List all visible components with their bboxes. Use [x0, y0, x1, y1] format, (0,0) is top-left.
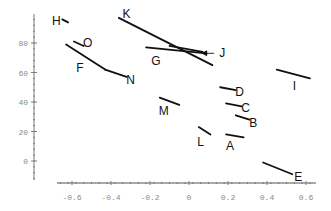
segment-i — [277, 70, 310, 79]
y-tick-label: 20 — [18, 128, 28, 137]
label-b: B — [249, 116, 257, 130]
y-axis: 020406080 — [18, 14, 37, 180]
label-i: I — [293, 79, 296, 93]
segment-d — [220, 87, 236, 90]
y-tick-label: 80 — [18, 39, 28, 48]
segment-a — [226, 134, 244, 137]
segment-h — [62, 19, 68, 22]
label-g: G — [151, 54, 160, 68]
data-segments — [62, 18, 310, 174]
label-f: F — [76, 61, 83, 75]
label-a: A — [226, 139, 234, 153]
label-j: J — [219, 46, 225, 60]
label-k: K — [123, 7, 131, 21]
label-c: C — [241, 101, 250, 115]
label-o: O — [83, 36, 92, 50]
x-tick-label: -0.6 — [62, 193, 81, 202]
x-tick-label: 0.6 — [299, 193, 314, 202]
scatter-segment-chart: 020406080 -0.6-0.4-0.200.20.40.6 HOFNKGJ… — [0, 0, 331, 211]
x-tick-label: 0 — [187, 193, 192, 202]
x-axis: -0.6-0.4-0.200.20.40.6 — [57, 181, 316, 202]
x-tick-label: -0.2 — [140, 193, 159, 202]
label-d: D — [235, 85, 244, 99]
y-tick-label: 40 — [18, 98, 28, 107]
segment-labels: HOFNKGJDCBALMIE — [52, 7, 302, 185]
segment-n — [105, 70, 126, 77]
label-n: N — [126, 73, 135, 87]
x-tick-label: 0.2 — [221, 193, 236, 202]
x-tick-label: -0.4 — [101, 193, 120, 202]
segment-l — [199, 127, 211, 134]
segment-c — [226, 103, 242, 106]
label-h: H — [52, 14, 61, 28]
label-m: M — [159, 104, 169, 118]
segment-b — [236, 115, 250, 119]
x-tick-label: 0.4 — [260, 193, 275, 202]
label-e: E — [294, 170, 302, 184]
label-l: L — [197, 135, 204, 149]
y-tick-label: 60 — [18, 69, 28, 78]
segment-k — [119, 18, 213, 65]
segment-e — [263, 162, 292, 174]
y-tick-label: 0 — [23, 157, 28, 166]
